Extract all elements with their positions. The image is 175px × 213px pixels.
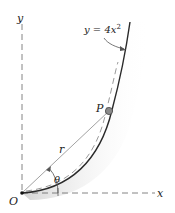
theta-label: θ	[54, 174, 60, 185]
y-axis-label: y	[16, 12, 24, 25]
origin-label: O	[9, 195, 18, 208]
curve-shading	[22, 22, 150, 200]
x-axis-label: x	[157, 187, 164, 200]
polar-parabola-diagram: y x O P r θ y = 4x2	[0, 0, 175, 213]
dashed-trajectory	[26, 62, 118, 191]
equation-label: y = 4x2	[83, 23, 121, 35]
point-p	[105, 107, 112, 114]
radius-label: r	[59, 143, 65, 156]
point-p-label: P	[95, 102, 104, 115]
origin-dot	[20, 191, 24, 195]
theta-arrow-icon	[46, 166, 51, 172]
